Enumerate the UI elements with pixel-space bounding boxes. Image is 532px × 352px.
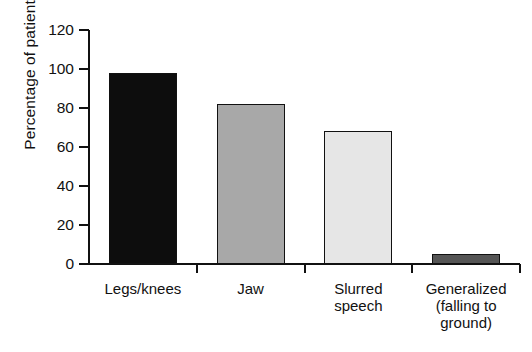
x-axis-tick <box>304 264 306 273</box>
y-axis-tick <box>79 146 89 148</box>
y-axis-tick-label: 120 <box>36 22 74 38</box>
x-axis-category-label: Legs/knees <box>89 280 197 297</box>
y-axis-tick-label: 40 <box>36 178 74 194</box>
x-axis-category-label: Slurredspeech <box>305 280 413 314</box>
plot-area: 020406080100120 Legs/kneesJawSlurredspee… <box>0 0 532 352</box>
y-axis-tick-label: 20 <box>36 217 74 233</box>
y-axis-tick-label-text: 120 <box>38 22 74 38</box>
y-axis-tick <box>79 263 89 265</box>
bar <box>109 73 177 264</box>
y-axis-tick-label-text: 20 <box>38 217 74 233</box>
x-axis-category-label: Generalized(falling toground) <box>412 280 520 331</box>
bar <box>324 131 392 264</box>
y-axis-tick <box>79 107 89 109</box>
y-axis-tick-label: 80 <box>36 100 74 116</box>
x-axis-category-label-line: Legs/knees <box>89 280 197 297</box>
y-axis-tick <box>79 224 89 226</box>
bar-chart: Percentage of patients 020406080100120 L… <box>0 0 532 352</box>
x-axis-category-label-line: (falling to <box>412 297 520 314</box>
y-axis-tick-label-text: 40 <box>38 178 74 194</box>
x-axis-category-label-line: Generalized <box>412 280 520 297</box>
x-axis-category-label-line: speech <box>305 297 413 314</box>
x-axis-category-label-line: Jaw <box>197 280 305 297</box>
bar <box>432 254 500 264</box>
y-axis-tick-label: 0 <box>36 256 74 272</box>
x-axis-category-label: Jaw <box>197 280 305 297</box>
x-axis-tick <box>196 264 198 273</box>
x-axis-tick <box>519 264 521 273</box>
y-axis-tick <box>79 29 89 31</box>
y-axis-tick-label: 60 <box>36 139 74 155</box>
y-axis-tick-label: 100 <box>36 61 74 77</box>
x-axis-tick <box>411 264 413 273</box>
x-axis-category-label-line: ground) <box>412 314 520 331</box>
y-axis-tick-label-text: 80 <box>38 100 74 116</box>
bar <box>217 104 285 264</box>
y-axis-tick <box>79 68 89 70</box>
y-axis-tick-label-text: 60 <box>38 139 74 155</box>
y-axis-tick-label-text: 0 <box>38 256 74 272</box>
y-axis-tick-label-text: 100 <box>38 61 74 77</box>
x-axis-category-label-line: Slurred <box>305 280 413 297</box>
y-axis-tick <box>79 185 89 187</box>
